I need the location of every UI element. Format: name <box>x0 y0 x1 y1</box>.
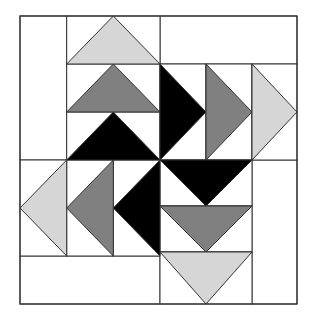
bottom-right-bar <box>252 160 297 304</box>
bottom-left-bar <box>20 256 160 304</box>
quilt-block <box>0 0 316 320</box>
top-left-bar <box>20 16 67 160</box>
top-right-bar <box>160 16 297 64</box>
